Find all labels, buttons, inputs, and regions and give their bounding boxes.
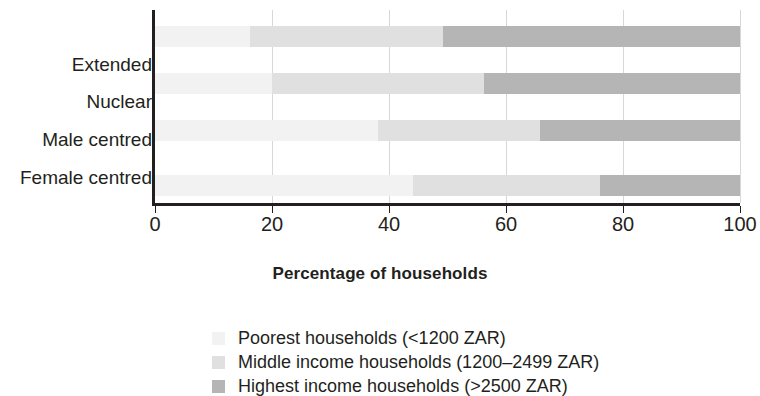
legend-item: Highest income households (>2500 ZAR) bbox=[212, 375, 599, 396]
plot-area: 020406080100 ExtendedNuclearMale centred… bbox=[155, 10, 740, 203]
category-label: Male centred bbox=[4, 130, 152, 149]
bar-segment bbox=[600, 175, 740, 196]
category-label: Extended bbox=[4, 55, 152, 74]
legend-item: Middle income households (1200–2499 ZAR) bbox=[212, 351, 599, 373]
bar-segment bbox=[250, 26, 443, 47]
legend-label: Poorest households (<1200 ZAR) bbox=[238, 329, 506, 347]
bar-row bbox=[155, 120, 740, 141]
tick-mark bbox=[740, 206, 741, 213]
stacked-bar-chart: 020406080100 ExtendedNuclearMale centred… bbox=[0, 0, 760, 396]
tick-mark bbox=[389, 206, 390, 213]
legend-label: Middle income households (1200–2499 ZAR) bbox=[238, 353, 599, 371]
bar-segment bbox=[155, 26, 250, 47]
category-label: Nuclear bbox=[4, 92, 152, 111]
category-label: Female centred bbox=[4, 168, 152, 187]
bar-row bbox=[155, 26, 740, 47]
tick-mark bbox=[623, 206, 624, 213]
bar-segment bbox=[155, 73, 272, 94]
x-axis-line bbox=[152, 203, 740, 206]
x-tick-label: 0 bbox=[149, 214, 160, 234]
bar-segment bbox=[155, 120, 378, 141]
bar-row bbox=[155, 73, 740, 94]
x-axis-title: Percentage of households bbox=[0, 264, 760, 284]
x-tick-label: 80 bbox=[612, 214, 634, 234]
bar-row bbox=[155, 175, 740, 196]
bar-segment bbox=[443, 26, 740, 47]
legend-swatch bbox=[212, 380, 225, 393]
bar-segment bbox=[155, 175, 413, 196]
tick-mark bbox=[272, 206, 273, 213]
x-tick-label: 20 bbox=[261, 214, 283, 234]
bar-segment bbox=[272, 73, 484, 94]
legend-label: Highest income households (>2500 ZAR) bbox=[238, 377, 568, 395]
x-tick-label: 100 bbox=[723, 214, 756, 234]
tick-mark bbox=[155, 206, 156, 213]
legend-swatch bbox=[212, 356, 225, 369]
bar-segment bbox=[378, 120, 540, 141]
x-tick-label: 40 bbox=[378, 214, 400, 234]
bar-segment bbox=[413, 175, 600, 196]
bar-segment bbox=[484, 73, 740, 94]
legend-swatch bbox=[212, 332, 225, 345]
bar-segment bbox=[540, 120, 740, 141]
chart-legend: Poorest households (<1200 ZAR)Middle inc… bbox=[212, 327, 599, 396]
x-tick-label: 60 bbox=[495, 214, 517, 234]
gridline bbox=[740, 10, 741, 203]
tick-mark bbox=[506, 206, 507, 213]
legend-item: Poorest households (<1200 ZAR) bbox=[212, 327, 599, 349]
